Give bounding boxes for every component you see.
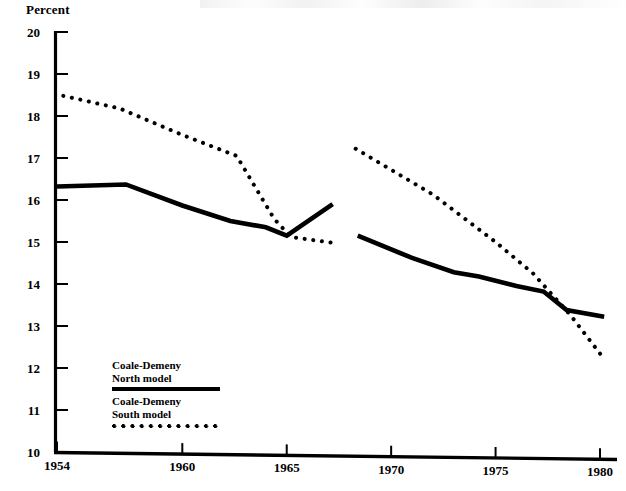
x-axis-tick-label: 1960 (159, 460, 205, 473)
series-line-north-seg2 (358, 236, 604, 317)
x-axis-tick-label: 1975 (473, 464, 519, 477)
x-axis-tick-label: 1954 (34, 459, 80, 472)
y-axis-tick-label: 10 (14, 446, 40, 459)
plot-area (0, 0, 626, 491)
dotted-line-swatch (112, 424, 220, 429)
chart-legend: Coale-Demeny North model Coale-Demeny So… (112, 359, 232, 429)
y-axis-tick-label: 16 (14, 194, 40, 207)
y-axis-tick-label: 17 (14, 152, 40, 165)
legend-label-north-line2: North model (112, 372, 232, 385)
legend-label-south-line1: Coale-Demeny (112, 395, 232, 408)
x-axis-tick-label: 1965 (264, 461, 310, 474)
legend-label-north-line1: Coale-Demeny (112, 359, 232, 372)
x-axis-tick-label: 1970 (368, 463, 414, 476)
data-series-layer (57, 96, 604, 356)
legend-entry-north: Coale-Demeny North model (112, 359, 232, 391)
x-axis-tick-label: 1980 (577, 465, 623, 478)
y-axis-tick-label: 11 (14, 404, 40, 417)
y-axis-tick-label: 19 (14, 68, 40, 81)
legend-label-south-line2: South model (112, 408, 232, 421)
y-axis-tick-label: 20 (14, 26, 40, 39)
x-axis-line (54, 453, 617, 460)
series-line-south-seg1 (63, 96, 332, 243)
chart-figure: Percent 1011121314151617181920 195419601… (0, 0, 626, 491)
legend-entry-south: Coale-Demeny South model (112, 395, 232, 429)
y-axis-tick-label: 15 (14, 236, 40, 249)
y-axis-tick-label: 18 (14, 110, 40, 123)
y-axis-tick-label: 12 (14, 362, 40, 375)
y-axis-title: Percent (26, 2, 70, 18)
series-line-north-seg1 (57, 184, 333, 235)
series-line-south-seg2 (356, 149, 602, 356)
solid-line-swatch (112, 387, 220, 391)
y-axis-tick-label: 13 (14, 320, 40, 333)
y-axis-tick-label: 14 (14, 278, 40, 291)
